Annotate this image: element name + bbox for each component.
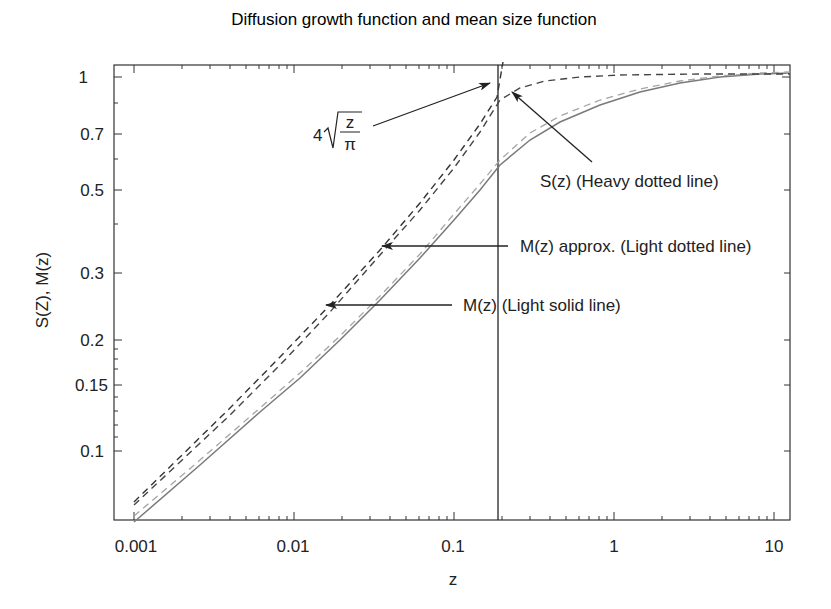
y-tick-0.2: 0.2 xyxy=(80,331,104,350)
y-tick-1: 1 xyxy=(79,68,88,87)
x-axis-ticks xyxy=(134,65,774,520)
y-tick-0.3: 0.3 xyxy=(80,264,104,283)
x-tick-0.01: 0.01 xyxy=(276,537,309,556)
x-tick-0.1: 0.1 xyxy=(441,537,465,556)
curves xyxy=(134,62,790,522)
x-axis-minor-ticks xyxy=(182,65,767,520)
x-axis-title: z xyxy=(449,570,458,589)
y-tick-0.5: 0.5 xyxy=(80,181,104,200)
arrow-s xyxy=(512,92,592,162)
annotation-s: S(z) (Heavy dotted line) xyxy=(512,92,719,191)
label-s: S(z) (Heavy dotted line) xyxy=(540,172,719,191)
sqrt-radical-icon xyxy=(324,112,362,148)
annotation-m: M(z) (Light solid line) xyxy=(326,296,621,315)
chart: Diffusion growth function and mean size … xyxy=(0,0,831,609)
label-m-approx: M(z) approx. (Light dotted line) xyxy=(520,237,752,256)
formula-denominator: π xyxy=(344,135,356,154)
x-axis-labels: 0.001 0.01 0.1 1 10 xyxy=(115,537,784,556)
arrow-4sqrt xyxy=(373,83,490,126)
series-m-solid xyxy=(134,73,790,522)
x-tick-1: 1 xyxy=(609,537,618,556)
label-m: M(z) (Light solid line) xyxy=(463,296,621,315)
y-tick-0.15: 0.15 xyxy=(75,376,108,395)
series-m-approx xyxy=(134,72,790,516)
y-axis-labels: 1 0.7 0.5 0.3 0.2 0.15 0.1 xyxy=(75,68,108,461)
formula-numerator: z xyxy=(346,113,355,132)
y-tick-0.7: 0.7 xyxy=(80,125,104,144)
y-axis-title: S(Z), M(z) xyxy=(33,252,52,328)
y-axis-ticks xyxy=(114,77,790,451)
y-tick-0.1: 0.1 xyxy=(80,442,104,461)
x-tick-10: 10 xyxy=(765,537,784,556)
formula-coefficient: 4 xyxy=(313,126,322,145)
chart-title: Diffusion growth function and mean size … xyxy=(231,10,596,29)
annotation-4sqrt: 4 z π xyxy=(313,83,490,154)
annotation-m-approx: M(z) approx. (Light dotted line) xyxy=(382,237,752,256)
x-tick-0.001: 0.001 xyxy=(115,537,158,556)
series-s-heavy xyxy=(134,74,790,505)
